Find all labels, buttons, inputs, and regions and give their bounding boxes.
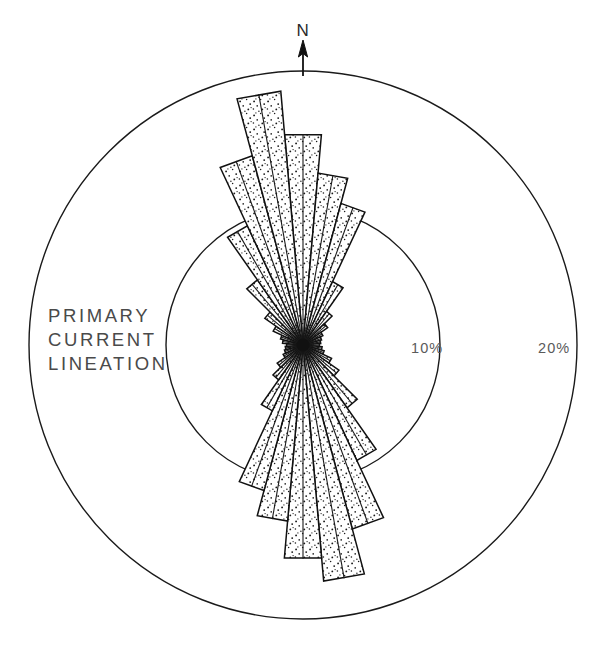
ring-label-10: 10% — [411, 340, 443, 356]
figure-title: PRIMARY CURRENT LINEATION — [48, 305, 168, 374]
ring-label-20: 20% — [538, 340, 570, 356]
title-line-3: LINEATION — [48, 353, 168, 374]
north-label: N — [297, 21, 310, 40]
rose-diagram-figure: N 10% 20% PRIMARY CURRENT LINEATION — [0, 0, 596, 668]
title-line-1: PRIMARY — [48, 305, 150, 326]
rose-diagram-svg: N 10% 20% PRIMARY CURRENT LINEATION — [0, 0, 596, 668]
rose-center-hub — [297, 339, 310, 352]
title-line-2: CURRENT — [48, 329, 157, 350]
